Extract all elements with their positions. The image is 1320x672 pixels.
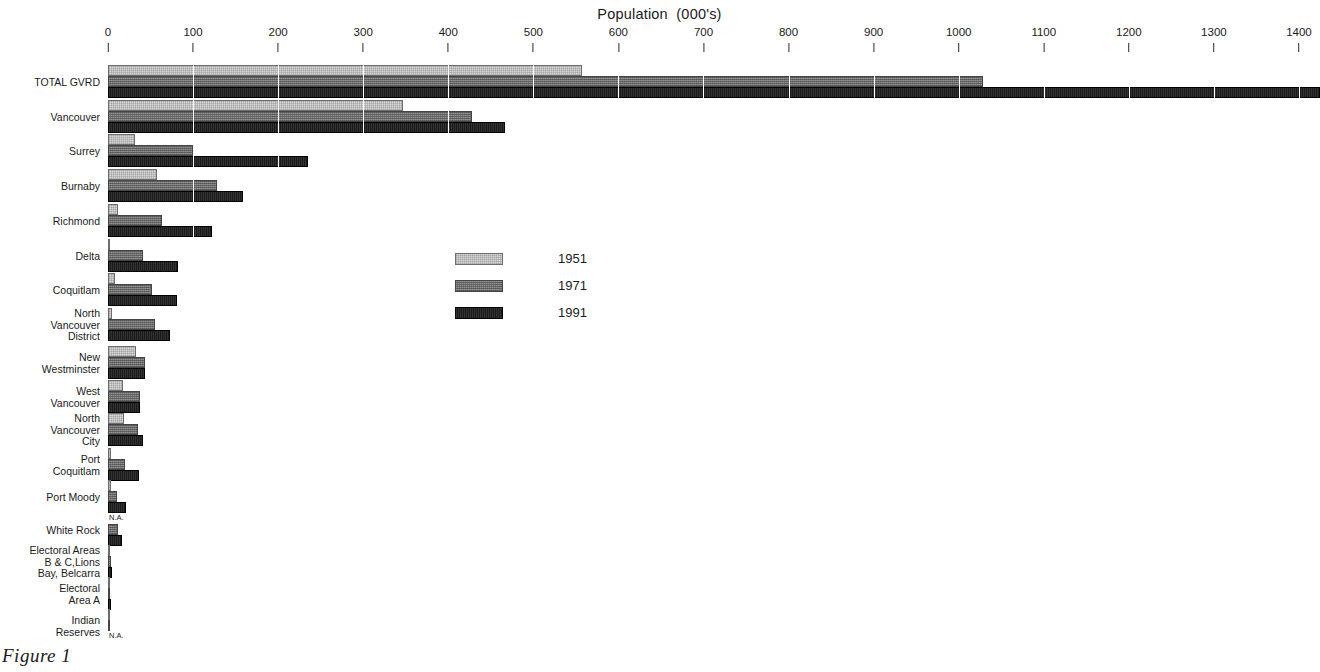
category-label: TOTAL GVRD xyxy=(0,77,100,89)
chart-title: Population (000's) xyxy=(0,6,1319,22)
bar-1991 xyxy=(108,368,145,379)
x-axis-tick-mark xyxy=(873,43,874,52)
bar-group xyxy=(108,480,126,513)
bar-1991 xyxy=(108,435,143,446)
category-label: Burnaby xyxy=(0,181,100,193)
x-axis-tick: 400 xyxy=(439,26,458,52)
x-axis-tick: 1000 xyxy=(946,26,972,52)
gridline xyxy=(1214,62,1215,638)
bar-group: N.A. xyxy=(108,513,122,546)
na-annotation: N.A. xyxy=(109,630,124,641)
legend-label: 1951 xyxy=(558,251,587,266)
bar-group xyxy=(108,577,111,610)
bar-1971 xyxy=(108,284,152,295)
x-axis-tick-mark xyxy=(1128,43,1129,52)
bar-1991: N.A. xyxy=(108,631,110,642)
bar-1971 xyxy=(108,145,193,156)
bar-1991 xyxy=(108,226,212,237)
category-label: West Vancouver xyxy=(0,386,100,409)
bar-1971 xyxy=(108,491,117,502)
x-axis-tick-mark xyxy=(618,43,619,52)
legend-label: 1991 xyxy=(558,305,587,320)
bar-group xyxy=(108,204,212,237)
bar-1971 xyxy=(108,524,118,535)
na-annotation: N.A. xyxy=(109,512,124,523)
bar-group xyxy=(108,380,140,413)
x-axis-tick-label: 1000 xyxy=(946,26,972,39)
bar-group xyxy=(108,100,505,133)
bar-1951 xyxy=(108,308,112,319)
gridline xyxy=(1129,62,1130,638)
legend-swatch xyxy=(455,253,503,265)
bar-1971 xyxy=(108,424,138,435)
x-axis-tick: 500 xyxy=(524,26,543,52)
gridline xyxy=(959,62,960,638)
bar-1971 xyxy=(108,319,155,330)
bar-group xyxy=(108,65,1320,98)
bar-1991 xyxy=(108,122,505,133)
bar-1951 xyxy=(108,413,124,424)
bar-1951 xyxy=(108,273,115,284)
x-axis-tick-mark xyxy=(278,43,279,52)
bar-group xyxy=(108,134,308,167)
bar-1951 xyxy=(108,169,157,180)
bar-1951 xyxy=(108,480,111,491)
plot-area: TOTAL GVRDVancouverSurreyBurnabyRichmond… xyxy=(0,62,1319,642)
bar-1991 xyxy=(108,191,243,202)
bar-1971 xyxy=(108,459,125,470)
x-axis-tick-mark xyxy=(788,43,789,52)
bar-1991 xyxy=(108,330,170,341)
x-axis: 0100200300400500600700800900100011001200… xyxy=(0,26,1319,62)
bar-1951 xyxy=(108,346,136,357)
bar-1951 xyxy=(108,239,110,250)
category-label: North Vancouver City xyxy=(0,413,100,448)
x-axis-tick: 200 xyxy=(269,26,288,52)
bar-1971 xyxy=(108,391,140,402)
category-label: Electoral Area A xyxy=(0,583,100,606)
x-axis-tick-label: 1300 xyxy=(1201,26,1227,39)
x-axis-tick-mark xyxy=(958,43,959,52)
x-axis-tick: 1400 xyxy=(1286,26,1312,52)
bar-1951 xyxy=(108,448,111,459)
x-axis-tick: 1300 xyxy=(1201,26,1227,52)
bar-1971 xyxy=(108,357,145,368)
bar-1991 xyxy=(108,295,177,306)
bar-1951: N.A. xyxy=(108,513,110,524)
gridline xyxy=(874,62,875,638)
bar-group xyxy=(108,413,143,446)
bar-group xyxy=(108,273,177,306)
x-axis-tick: 900 xyxy=(864,26,883,52)
legend-item: 1991 xyxy=(455,299,587,326)
gridline xyxy=(789,62,790,638)
bar-group xyxy=(108,346,145,379)
bar-1951 xyxy=(108,577,110,588)
x-axis-tick-mark xyxy=(1213,43,1214,52)
category-label: Surrey xyxy=(0,146,100,158)
chart-legend: 195119711991 xyxy=(455,245,587,326)
gridline xyxy=(1299,62,1300,638)
legend-swatch xyxy=(455,307,503,319)
bar-1971 xyxy=(108,588,110,599)
bar-1951 xyxy=(108,65,582,76)
bar-1971 xyxy=(108,180,217,191)
category-label: North Vancouver District xyxy=(0,308,100,343)
gridline xyxy=(1044,62,1045,638)
bar-1951 xyxy=(108,134,135,145)
x-axis-tick-mark xyxy=(1298,43,1299,52)
x-axis-tick-label: 0 xyxy=(105,26,111,39)
bar-1951 xyxy=(108,545,110,556)
x-axis-tick-mark xyxy=(108,43,109,52)
category-label: New Westminster xyxy=(0,352,100,375)
x-axis-tick: 100 xyxy=(183,26,202,52)
legend-swatch xyxy=(455,280,503,292)
x-axis-tick-mark xyxy=(703,43,704,52)
bar-group: N.A. xyxy=(108,609,110,642)
bar-group xyxy=(108,169,243,202)
x-axis-tick-mark xyxy=(193,43,194,52)
x-axis-tick: 1200 xyxy=(1116,26,1142,52)
legend-item: 1971 xyxy=(455,272,587,299)
x-axis-tick-label: 200 xyxy=(269,26,288,39)
bar-group xyxy=(108,308,170,341)
x-axis-tick-mark xyxy=(448,43,449,52)
